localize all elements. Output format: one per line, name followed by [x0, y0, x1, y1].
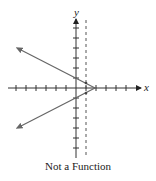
lower-ray	[21, 88, 95, 126]
intersection-point-upper	[85, 82, 88, 85]
figure-caption: Not a Function	[0, 160, 156, 172]
x-axis-label: x	[143, 81, 149, 93]
intersection-point-lower	[85, 92, 88, 95]
upper-ray	[21, 50, 95, 88]
graph: y x	[0, 0, 156, 181]
y-axis-label: y	[73, 6, 79, 18]
